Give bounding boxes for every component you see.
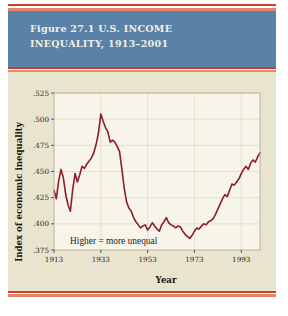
figure-title-banner: Figure 27.1 U.S. INCOME INEQUALITY, 1913… bbox=[8, 11, 276, 67]
y-tick-label: .400 bbox=[33, 219, 49, 228]
figure-page: Figure 27.1 U.S. INCOME INEQUALITY, 1913… bbox=[0, 0, 288, 316]
x-axis-title: Year bbox=[155, 275, 177, 285]
x-tick-label: 1913 bbox=[45, 255, 64, 264]
y-axis-ticks: .375.400.425.450.475.500.525 bbox=[33, 89, 54, 255]
top-decorative-stripes bbox=[8, 4, 276, 11]
y-tick-label: .375 bbox=[33, 246, 49, 255]
x-tick-label: 1953 bbox=[138, 255, 157, 264]
y-tick-label: .450 bbox=[33, 167, 49, 176]
line-chart: .375.400.425.450.475.500.525 19131933195… bbox=[8, 72, 276, 291]
x-tick-label: 1973 bbox=[185, 255, 204, 264]
stripe-red-top bbox=[8, 4, 276, 6]
x-tick-label: 1993 bbox=[232, 255, 251, 264]
figure-title: Figure 27.1 U.S. INCOME INEQUALITY, 1913… bbox=[30, 21, 266, 51]
y-tick-label: .475 bbox=[33, 141, 49, 150]
bottom-decorative-stripes bbox=[8, 291, 276, 298]
y-tick-label: .525 bbox=[33, 89, 49, 98]
y-tick-label: .425 bbox=[33, 193, 49, 202]
plot-annotation: Higher = more unequal bbox=[70, 236, 158, 246]
chart-container: .375.400.425.450.475.500.525 19131933195… bbox=[8, 72, 276, 291]
y-tick-label: .500 bbox=[33, 115, 49, 124]
x-axis-ticks: 19131933195319731993 bbox=[45, 250, 251, 264]
stripe-salmon-bottom bbox=[8, 294, 276, 297]
y-axis-title: Index of economic inequality bbox=[14, 121, 24, 262]
figure-body: .375.400.425.450.475.500.525 19131933195… bbox=[8, 72, 276, 291]
x-tick-label: 1933 bbox=[92, 255, 111, 264]
